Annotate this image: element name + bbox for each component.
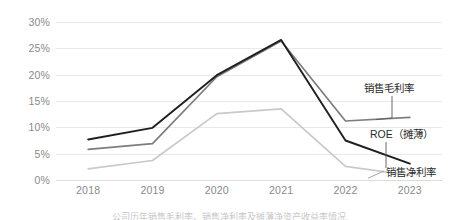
x-axis-tick-label: 2022 [316, 184, 376, 196]
leader-line-gross-margin [376, 96, 392, 120]
leader-line-net-margin [368, 171, 384, 178]
x-axis-tick-label: 2020 [187, 184, 247, 196]
annotation-gross-margin: 销售毛利率 [364, 82, 414, 94]
x-axis-tick-label: 2023 [380, 184, 440, 196]
chart-caption: 公司历年销售毛利率、销售净利率及摊薄净资产收益率情况 [0, 212, 457, 220]
x-axis-tick-label: 2021 [251, 184, 311, 196]
annotation-roe: ROE（摊薄） [370, 128, 433, 140]
x-axis-tick-label: 2019 [123, 184, 183, 196]
line-chart: 30%25%20%15%10%5%0% 20182019202020212022… [0, 0, 457, 220]
x-axis: 201820192020202120222023 [56, 184, 442, 204]
annotation-net-margin: 销售净利率 [386, 166, 436, 178]
x-axis-tick-label: 2018 [58, 184, 118, 196]
series-line [88, 109, 410, 175]
